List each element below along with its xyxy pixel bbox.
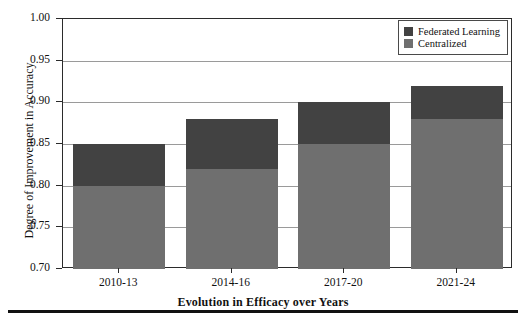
x-tick-mark <box>118 268 119 273</box>
gridline <box>63 61 511 62</box>
legend-swatch-federated-learning <box>404 27 413 36</box>
y-tick-label: 0.95 <box>0 54 50 66</box>
bar-segment-centralized[interactable] <box>73 186 165 269</box>
x-tick-label: 2021-24 <box>437 276 475 288</box>
bar-segment-federated-learning[interactable] <box>73 144 165 186</box>
chart-legend: Federated Learning Centralized <box>398 20 508 55</box>
y-tick-label: 0.85 <box>0 137 50 149</box>
x-tick-label: 2017-20 <box>324 276 362 288</box>
y-tick-label: 0.70 <box>0 262 50 274</box>
bar-segment-federated-learning[interactable] <box>411 86 503 119</box>
bar-segment-centralized[interactable] <box>298 144 390 269</box>
bar-group[interactable] <box>298 102 390 269</box>
x-tick-mark <box>231 268 232 273</box>
legend-swatch-centralized <box>404 39 413 48</box>
bar-segment-centralized[interactable] <box>411 119 503 269</box>
bar-group[interactable] <box>186 119 278 269</box>
x-tick-label: 2010-13 <box>99 276 137 288</box>
y-tick-mark <box>56 268 62 269</box>
y-tick-label: 0.75 <box>0 220 50 232</box>
y-tick-label: 0.80 <box>0 179 50 191</box>
y-tick-label: 1.00 <box>0 12 50 24</box>
bar-segment-federated-learning[interactable] <box>298 102 390 144</box>
x-axis-title: Evolution in Efficacy over Years <box>0 295 526 310</box>
legend-label-federated-learning: Federated Learning <box>418 26 500 37</box>
x-tick-mark <box>343 268 344 273</box>
legend-item-centralized: Centralized <box>404 38 502 49</box>
x-tick-mark <box>456 268 457 273</box>
footer-rule <box>8 310 518 313</box>
bar-segment-centralized[interactable] <box>186 169 278 269</box>
bar-segment-federated-learning[interactable] <box>186 119 278 169</box>
bar-group[interactable] <box>73 144 165 269</box>
x-tick-label: 2014-16 <box>212 276 250 288</box>
bar-group[interactable] <box>411 86 503 269</box>
chart-figure: Degree of Improvement in Accuracy 1.000.… <box>0 0 526 323</box>
plot-area <box>62 18 512 268</box>
y-tick-label: 0.90 <box>0 95 50 107</box>
legend-item-federated-learning: Federated Learning <box>404 26 502 37</box>
legend-label-centralized: Centralized <box>418 38 466 49</box>
